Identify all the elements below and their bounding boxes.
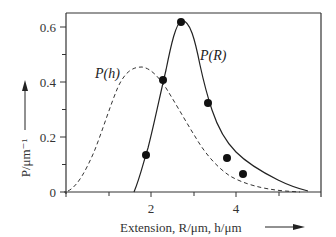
curve-p-r (134, 21, 308, 192)
data-point (159, 76, 167, 84)
y-tick-label-0.2: 0.2 (40, 130, 56, 145)
y-axis-title: P/μm⁻¹ (18, 139, 33, 178)
data-point (223, 154, 231, 162)
y-axis-arrow-icon (22, 80, 28, 130)
chart-canvas: 0 0.2 0.4 0.6 2 4 P(h) P(R) P/μm⁻¹ Exten… (0, 0, 336, 237)
plot-frame (64, 13, 321, 197)
data-point (239, 170, 247, 178)
label-p-r: P(R) (199, 48, 227, 64)
y-tick-label-0: 0 (50, 185, 57, 200)
x-tick-label-4: 4 (233, 201, 240, 216)
data-point (142, 151, 150, 159)
x-axis-arrow-icon (265, 224, 305, 230)
x-axis-title: Extension, R/μm, h/μm (120, 220, 242, 235)
x-ticks (66, 192, 279, 197)
data-point (177, 18, 185, 26)
label-p-h: P(h) (94, 66, 120, 82)
y-tick-label-0.6: 0.6 (40, 20, 57, 35)
y-tick-label-0.4: 0.4 (40, 75, 57, 90)
y-ticks (60, 27, 66, 192)
x-tick-label-2: 2 (148, 201, 155, 216)
data-point (204, 99, 212, 107)
